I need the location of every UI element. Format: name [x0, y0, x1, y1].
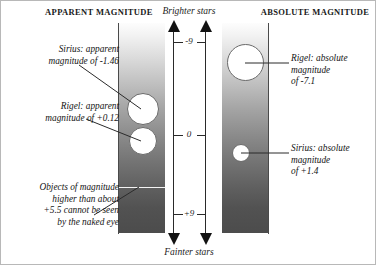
- absolute-scale-axis-line: [205, 29, 206, 235]
- tick-label-minus9: -9: [177, 36, 201, 46]
- naked-eye-cutoff-line: [119, 187, 165, 188]
- sirius-apparent-star-disc: [127, 93, 159, 125]
- rigel-apparent-star-disc: [129, 127, 157, 155]
- apparent-scale-axis-line: [173, 29, 174, 235]
- fainter-stars-caption: Fainter stars: [134, 247, 244, 257]
- absolute-bar-right-rule: [268, 23, 269, 234]
- apparent-scale-up-arrow-icon: [168, 20, 180, 32]
- rigel-apparent-annotation: Rigel: apparent magnitude of +0.12: [7, 101, 119, 124]
- magnitude-comparison-figure: APPARENT MAGNITUDE ABSOLUTE MAGNITUDE Br…: [0, 0, 376, 265]
- absolute-scale-down-arrow-icon: [200, 233, 212, 245]
- naked-eye-limit-annotation: Objects of magnitude higher than about +…: [5, 182, 119, 228]
- brighter-stars-caption: Brighter stars: [134, 6, 244, 16]
- rigel-absolute-annotation: Rigel: absolute magnitude of -7.1: [291, 53, 375, 88]
- sirius-absolute-annotation: Sirius: absolute magnitude of +1.4: [291, 143, 375, 178]
- tick-label-plus9: +9: [177, 208, 201, 218]
- sirius-absolute-star-disc: [232, 144, 250, 162]
- tick-label-zero: 0: [177, 129, 201, 139]
- apparent-scale-down-arrow-icon: [168, 233, 180, 245]
- absolute-magnitude-heading: ABSOLUTE MAGNITUDE: [259, 7, 371, 17]
- sirius-apparent-annotation: Sirius: apparent magnitude of -1.46: [7, 44, 119, 67]
- rigel-absolute-star-disc: [227, 44, 264, 81]
- absolute-scale-up-arrow-icon: [200, 20, 212, 32]
